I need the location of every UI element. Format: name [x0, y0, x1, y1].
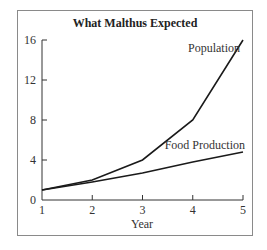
y-tick-label: 0: [30, 193, 36, 207]
series-label-food-production: Food Production: [165, 138, 245, 152]
series-lines: [42, 40, 243, 190]
x-tick-label: 3: [140, 203, 146, 217]
y-tick-label: 4: [30, 153, 36, 167]
series-label-population: Population: [188, 41, 240, 55]
y-tick-labels: 0481216: [24, 33, 36, 207]
x-tick-label: 2: [89, 203, 95, 217]
x-tick-label: 5: [240, 203, 246, 217]
x-tick-label: 1: [39, 203, 45, 217]
y-tick-label: 16: [24, 33, 36, 47]
y-tick-label: 8: [30, 113, 36, 127]
x-tick-labels: 12345: [39, 203, 246, 217]
line-chart: What Malthus Expected 0481216 12345 Year…: [0, 0, 267, 250]
series-line-population: [42, 40, 243, 190]
x-tick-label: 4: [190, 203, 196, 217]
chart-title: What Malthus Expected: [73, 16, 198, 30]
y-tick-label: 12: [24, 73, 36, 87]
axes: [42, 40, 243, 200]
x-axis-label: Year: [131, 217, 153, 231]
